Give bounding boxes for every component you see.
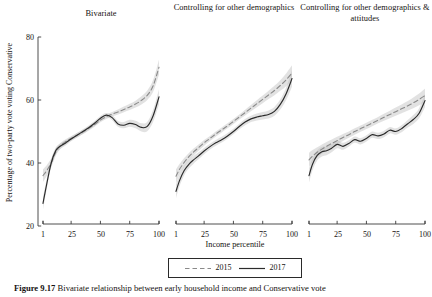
panel-2-plot <box>176 65 292 198</box>
legend-swatch-dashed-icon <box>185 265 211 272</box>
series-line-2017 <box>176 79 292 192</box>
p3-x-tick-25: 25 <box>326 230 350 239</box>
p1-x-tick-25: 25 <box>60 230 84 239</box>
caption-text: Bivariate relationship between early hou… <box>58 283 326 293</box>
p3-x-tick-1: 1 <box>297 230 321 239</box>
p2-x-tick-75: 75 <box>251 230 275 239</box>
p3-x-tick-75: 75 <box>384 230 408 239</box>
legend-item-2015: 2015 <box>185 264 232 272</box>
panel-3-plot <box>309 89 425 183</box>
series-line-2017 <box>309 101 425 176</box>
p1-x-tick-50: 50 <box>89 230 113 239</box>
p1-x-tick-75: 75 <box>118 230 142 239</box>
caption-number: Figure 9.17 <box>14 283 55 293</box>
confidence-band-2015 <box>176 65 292 183</box>
confidence-band-2017 <box>43 89 159 209</box>
panel-1-plot <box>43 60 159 210</box>
p3-x-tick-50: 50 <box>355 230 379 239</box>
figure-root: Percentage of two-party vote voting Cons… <box>0 0 432 297</box>
x-axis-label: Income percentile <box>165 240 305 249</box>
legend-item-2017: 2017 <box>239 264 286 272</box>
legend-swatch-solid-icon <box>239 265 265 272</box>
figure-caption: Figure 9.17 Bivariate relationship betwe… <box>14 283 418 294</box>
legend-label-2017: 2017 <box>270 264 286 272</box>
p2-x-tick-50: 50 <box>222 230 246 239</box>
legend-label-2015: 2015 <box>216 264 232 272</box>
p2-x-tick-25: 25 <box>193 230 217 239</box>
series-line-2017 <box>43 97 159 203</box>
plot-area <box>0 0 432 240</box>
p2-x-tick-1: 1 <box>164 230 188 239</box>
legend: 2015 2017 <box>168 258 302 278</box>
panel-3-x-axis <box>309 221 425 224</box>
p3-x-tick-100: 100 <box>413 230 432 239</box>
panel-1-x-axis <box>43 221 159 224</box>
p1-x-tick-1: 1 <box>31 230 55 239</box>
confidence-band-2015 <box>43 60 159 182</box>
panel-2-x-axis <box>176 221 292 224</box>
y-axis <box>38 37 41 226</box>
